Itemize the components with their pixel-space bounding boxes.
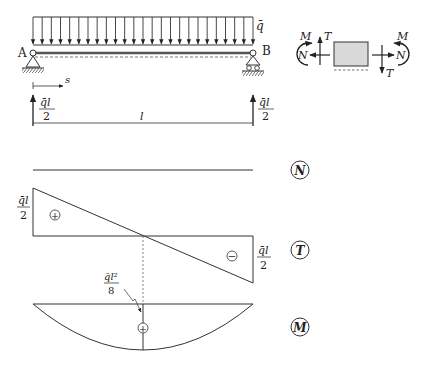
svg-text:T: T xyxy=(386,67,395,80)
svg-text:2: 2 xyxy=(262,110,269,123)
svg-text:q̄l: q̄l xyxy=(18,194,29,207)
svg-text:N: N xyxy=(297,49,308,62)
support-a-label: A xyxy=(17,46,27,60)
svg-text:M: M xyxy=(396,30,409,43)
svg-text:8: 8 xyxy=(108,285,114,296)
normal-force-diagram: N xyxy=(33,161,309,179)
s-coordinate: s xyxy=(33,74,70,89)
beam xyxy=(33,53,253,57)
reaction-left: q̄l 2 xyxy=(33,95,55,126)
roller-support-b: B xyxy=(242,44,271,76)
s-label: s xyxy=(65,74,70,85)
load-label: q̄ xyxy=(256,19,264,33)
svg-text:2: 2 xyxy=(260,259,267,272)
support-b-label: B xyxy=(262,44,271,58)
sign-convention: M N T M N T xyxy=(297,30,409,80)
shear-force-diagram: + − q̄l 2 q̄l 2 T xyxy=(17,188,309,304)
svg-text:q̄l²: q̄l² xyxy=(104,271,118,282)
svg-text:q̄l: q̄l xyxy=(259,96,270,109)
svg-text:N: N xyxy=(294,164,307,178)
svg-text:2: 2 xyxy=(43,110,50,123)
svg-text:M: M xyxy=(299,30,312,43)
pin-support-a: A xyxy=(17,46,44,73)
beam-diagram: q̄ A B s q̄l 2 q̄l 2 xyxy=(0,0,438,365)
svg-text:2: 2 xyxy=(20,209,27,222)
svg-text:q̄l: q̄l xyxy=(40,96,51,109)
svg-text:q̄l: q̄l xyxy=(258,244,269,257)
svg-text:+: + xyxy=(139,323,147,334)
bending-moment-diagram: + q̄l² 8 M xyxy=(33,271,309,350)
svg-text:T: T xyxy=(324,30,333,43)
load-arrows xyxy=(33,17,253,44)
svg-text:N: N xyxy=(395,49,406,62)
length-dimension: l xyxy=(33,110,253,123)
svg-text:−: − xyxy=(228,251,236,262)
svg-text:T: T xyxy=(296,244,306,258)
svg-text:M: M xyxy=(292,321,307,335)
svg-text:+: + xyxy=(51,210,59,221)
length-label: l xyxy=(140,110,144,123)
distributed-load: q̄ xyxy=(33,17,264,45)
reaction-right: q̄l 2 xyxy=(253,95,274,126)
